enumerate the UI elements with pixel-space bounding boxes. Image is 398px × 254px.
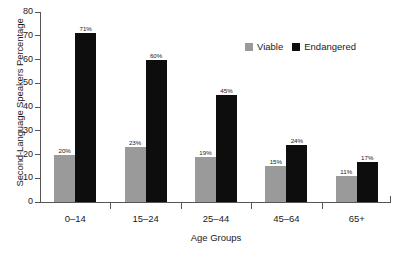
bar-viable xyxy=(336,176,357,202)
x-axis-tick-mark xyxy=(251,203,252,209)
x-axis-category-label: 25–44 xyxy=(181,213,251,224)
bar-viable xyxy=(265,166,286,202)
legend-swatch-endangered-icon xyxy=(292,43,300,51)
bar-value-label: 17% xyxy=(353,154,382,161)
x-axis-category-label: 65+ xyxy=(322,213,392,224)
y-axis-tick-label: 50 xyxy=(23,77,33,87)
bar-endangered xyxy=(357,162,378,202)
x-axis-category-label: 15–24 xyxy=(110,213,180,224)
bar-group: 19%45% xyxy=(181,12,251,202)
x-axis-line xyxy=(40,202,391,203)
bar-endangered xyxy=(75,33,96,202)
bar-value-label: 45% xyxy=(212,87,241,94)
x-axis-category-label: 45–64 xyxy=(251,213,321,224)
y-axis-tick-label: 70 xyxy=(23,30,33,40)
y-axis-tick-label: 20 xyxy=(23,149,33,159)
chart-legend: Viable Endangered xyxy=(245,41,356,52)
y-axis-tick-label: 80 xyxy=(23,6,33,16)
x-axis-tick-mark xyxy=(110,203,111,209)
bar-viable xyxy=(54,155,75,203)
bar-endangered xyxy=(286,145,307,202)
bar-viable xyxy=(195,157,216,202)
y-axis-tick-label: 30 xyxy=(23,125,33,135)
bar-value-label: 60% xyxy=(142,52,171,59)
bar-viable xyxy=(125,147,146,202)
legend-entry-viable: Viable xyxy=(245,41,283,52)
bar-value-label: 24% xyxy=(282,137,311,144)
bar-endangered xyxy=(216,95,237,202)
bar-chart: Second-Language Speakers Percentage 0102… xyxy=(0,0,398,254)
legend-label-viable: Viable xyxy=(257,41,283,52)
x-axis-tick-mark xyxy=(181,203,182,209)
y-axis-tick-label: 60 xyxy=(23,54,33,64)
bar-group: 23%60% xyxy=(110,12,180,202)
legend-swatch-viable-icon xyxy=(245,43,253,51)
legend-entry-endangered: Endangered xyxy=(292,41,356,52)
y-axis-tick-label: 10 xyxy=(23,172,33,182)
bar-value-label: 71% xyxy=(71,25,100,32)
legend-label-endangered: Endangered xyxy=(304,41,356,52)
bar-endangered xyxy=(146,60,167,203)
y-axis-tick-label: 0 xyxy=(28,196,33,206)
y-axis-tick-label: 40 xyxy=(23,101,33,111)
x-axis-title: Age Groups xyxy=(40,232,392,243)
x-axis-category-label: 0–14 xyxy=(40,213,110,224)
bar-group: 20%71% xyxy=(40,12,110,202)
x-axis-tick-mark xyxy=(322,203,323,209)
